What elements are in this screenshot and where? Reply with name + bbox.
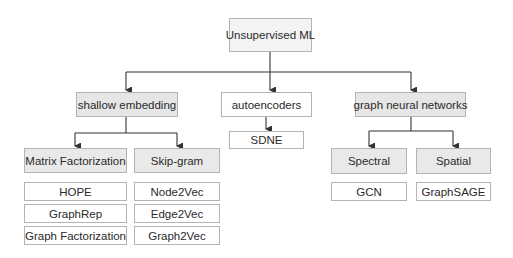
node-graph-neural-networks: graph neural networks: [355, 92, 466, 117]
node-hope: HOPE: [24, 182, 127, 201]
node-sdne: SDNE: [229, 131, 304, 149]
node-graph2vec: Graph2Vec: [134, 226, 220, 245]
node-gcn: GCN: [331, 182, 407, 201]
node-shallow-embedding: shallow embedding: [76, 92, 178, 117]
node-node2vec: Node2Vec: [134, 182, 220, 201]
node-graphrep: GraphRep: [24, 204, 127, 223]
node-unsupervised-ml: Unsupervised ML: [229, 18, 312, 52]
node-spatial: Spatial: [416, 148, 491, 174]
node-matrix-factorization: Matrix Factorization: [24, 148, 127, 173]
node-graph-factorization: Graph Factorization: [24, 226, 127, 245]
node-edge2vec: Edge2Vec: [134, 204, 220, 223]
node-autoencoders: autoencoders: [221, 92, 312, 117]
node-graphsage: GraphSAGE: [416, 182, 491, 201]
node-skip-gram: Skip-gram: [134, 148, 220, 173]
node-spectral: Spectral: [331, 148, 407, 174]
